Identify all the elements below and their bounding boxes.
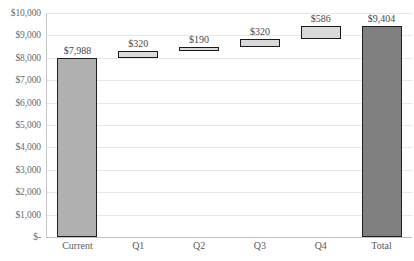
gridline	[47, 192, 412, 193]
x-axis-line	[46, 237, 412, 238]
gridline	[47, 80, 412, 81]
y-axis-tick-label: $7,000	[15, 75, 41, 85]
y-axis-tick-label: $4,000	[15, 142, 41, 152]
gridline	[47, 170, 412, 171]
y-axis-tick-label: $9,000	[15, 30, 41, 40]
gridline	[47, 58, 412, 59]
x-axis-tick-label: Q2	[169, 240, 230, 251]
x-axis-tick-label: Total	[351, 240, 412, 251]
bar-total[interactable]	[362, 26, 402, 237]
bar-q1[interactable]	[118, 51, 158, 58]
bar-value-label: $320	[220, 26, 300, 37]
plot-area: $7,988$320$190$320$586$9,404	[47, 13, 412, 237]
gridline	[47, 103, 412, 104]
chart-title	[0, 0, 414, 1]
x-axis-tick-label: Current	[47, 240, 108, 251]
bar-current[interactable]	[57, 58, 97, 237]
y-axis-tick-label: $1,000	[15, 210, 41, 220]
y-axis-tick-label: $5,000	[15, 120, 41, 130]
y-axis-tick-label: $2,000	[15, 187, 41, 197]
waterfall-chart: $-$1,000$2,000$3,000$4,000$5,000$6,000$7…	[0, 0, 414, 261]
x-axis-tick-label: Q4	[290, 240, 351, 251]
y-axis-tick-label: $3,000	[15, 165, 41, 175]
bar-q3[interactable]	[240, 39, 280, 46]
x-axis-tick-label: Q3	[230, 240, 291, 251]
y-axis-tick-label: $-	[33, 232, 41, 242]
bar-q2[interactable]	[179, 47, 219, 51]
y-axis-tick-label: $10,000	[11, 8, 41, 18]
x-axis: CurrentQ1Q2Q3Q4Total	[47, 240, 412, 258]
bar-q4[interactable]	[301, 26, 341, 39]
gridline	[47, 147, 412, 148]
gridline	[47, 215, 412, 216]
y-axis-tick-label: $6,000	[15, 98, 41, 108]
gridline	[47, 125, 412, 126]
bar-value-label: $9,404	[342, 13, 414, 24]
x-axis-tick-label: Q1	[108, 240, 169, 251]
